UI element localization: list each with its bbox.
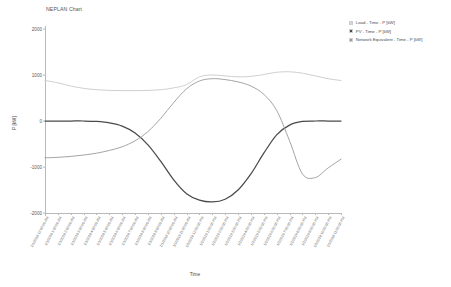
series-line-network-equivalent [45, 79, 341, 179]
y-axis-tick-label: -1000 [30, 165, 42, 170]
x-axis-tick-mark [96, 213, 97, 215]
neplan-chart: NEPLAN Chart Load - Time - P [kW] PV - T… [0, 0, 451, 287]
y-axis-tick-mark [43, 167, 45, 168]
x-axis-tick-mark [212, 213, 213, 215]
y-axis-tick-mark [43, 121, 45, 122]
y-axis-tick-mark [43, 29, 45, 30]
y-axis-tick-label: -2000 [30, 211, 42, 216]
y-axis-tick-mark [43, 75, 45, 76]
y-axis-tick-label: 2000 [32, 27, 42, 32]
x-axis-tick-mark [302, 213, 303, 215]
y-axis-tick-label: 0 [39, 119, 42, 124]
series-line-load [45, 72, 341, 91]
x-axis-tick-mark [109, 213, 110, 215]
x-axis-tick-mark [199, 213, 200, 215]
y-axis-tick-label: 1000 [32, 73, 42, 78]
